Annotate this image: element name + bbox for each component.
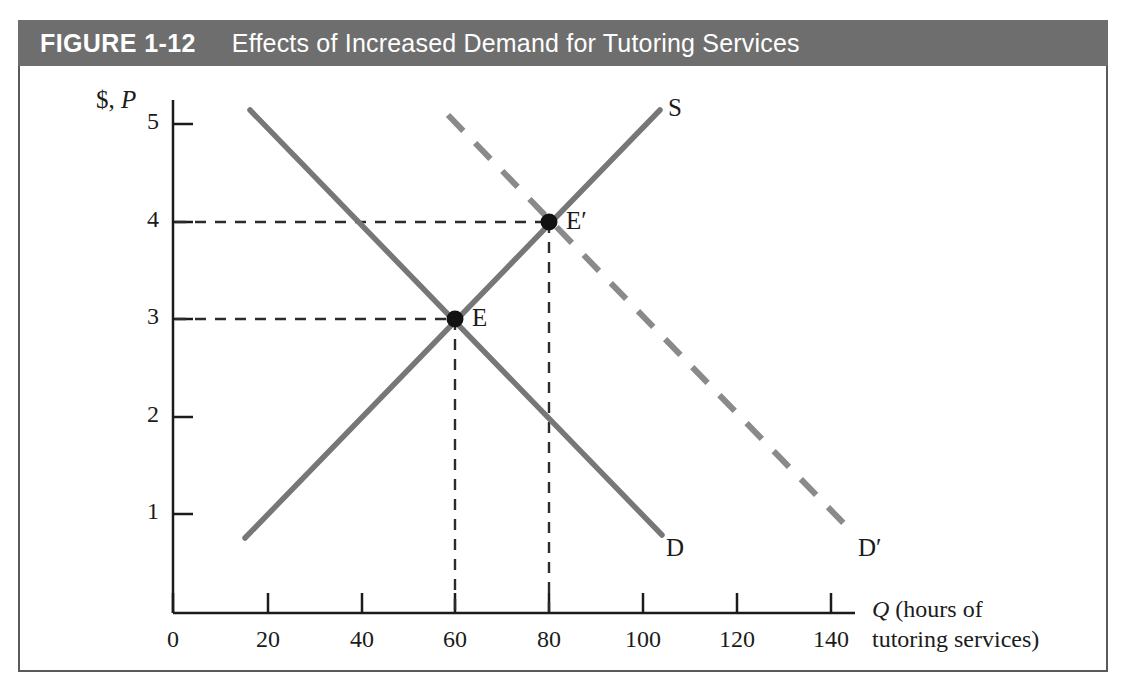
x-tick-label-0: 0 <box>143 626 203 653</box>
x-axis-label-line1: (hours of <box>889 596 982 622</box>
x-axis-label-line2: tutoring services) <box>872 626 1039 652</box>
y-tick-label-3: 3 <box>125 303 159 330</box>
x-tick-label-20: 20 <box>238 626 298 653</box>
x-axis-label: Q (hours of tutoring services) <box>872 594 1039 654</box>
curve-label-demand: D <box>666 534 684 562</box>
x-tick-label-40: 40 <box>332 626 392 653</box>
x-tick-label-120: 120 <box>707 626 767 653</box>
curve-label-demand-prime: D′ <box>858 534 882 562</box>
figure-container: FIGURE 1-12 Effects of Increased Demand … <box>0 0 1124 693</box>
y-tick-label-2: 2 <box>125 401 159 428</box>
x-tick-label-80: 80 <box>519 626 579 653</box>
figure-header-bar: FIGURE 1-12 Effects of Increased Demand … <box>18 20 1108 66</box>
y-tick-label-1: 1 <box>125 498 159 525</box>
y-tick-label-4: 4 <box>125 206 159 233</box>
x-axis-symbol: Q <box>872 596 889 622</box>
x-tick-label-100: 100 <box>613 626 673 653</box>
point-label-E-prime: E′ <box>566 207 587 235</box>
figure-number-label: FIGURE 1-12 <box>40 29 196 58</box>
y-axis-currency: $, <box>96 86 115 113</box>
x-tick-label-140: 140 <box>801 626 861 653</box>
point-label-E: E <box>472 304 487 332</box>
figure-frame <box>18 20 1108 672</box>
curve-label-supply: S <box>668 94 682 122</box>
y-tick-label-5: 5 <box>125 108 159 135</box>
x-tick-label-60: 60 <box>425 626 485 653</box>
figure-title: Effects of Increased Demand for Tutoring… <box>232 29 800 58</box>
